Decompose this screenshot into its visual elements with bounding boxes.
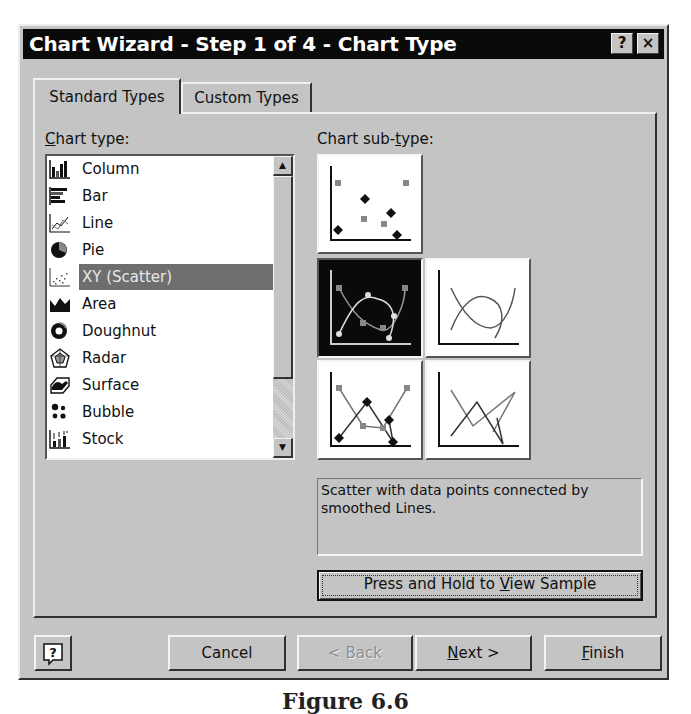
chart-type-item-pie[interactable]: Pie <box>47 237 273 264</box>
chart-type-item-column[interactable]: Column <box>47 156 273 183</box>
subtype-scatter-smoothed-lines-markers[interactable] <box>317 258 423 358</box>
scatter-straight-icon <box>431 366 525 454</box>
subtype-scatter-straight-lines[interactable] <box>425 360 531 460</box>
surface-chart-icon <box>49 375 71 395</box>
chart-type-item-area[interactable]: Area <box>47 291 273 318</box>
chart-subtype-grid <box>317 154 537 464</box>
chart-subtype-label: Chart sub-type: <box>317 130 434 148</box>
chart-type-item-label: Stock <box>79 426 127 452</box>
next-button[interactable]: Next > <box>415 635 532 671</box>
chart-type-item-label: Surface <box>79 372 142 398</box>
chart-type-item-label: Area <box>79 291 120 317</box>
chart-wizard-dialog: Chart Wizard - Step 1 of 4 - Chart Type … <box>18 24 669 680</box>
chart-type-item-label: Radar <box>79 345 129 371</box>
pie-chart-icon <box>49 240 71 260</box>
tab-custom-types[interactable]: Custom Types <box>181 82 312 114</box>
chart-type-item-label: Doughnut <box>79 318 159 344</box>
chart-type-item-stock[interactable]: Stock <box>47 426 273 453</box>
chart-type-item-xy-scatter[interactable]: XY (Scatter) <box>47 264 273 291</box>
chart-type-item-radar[interactable]: Radar <box>47 345 273 372</box>
svg-text:?: ? <box>49 645 57 660</box>
area-chart-icon <box>49 294 71 314</box>
chart-subtype-label-text: Chart sub- <box>317 130 395 148</box>
chart-subtype-label-text-end: ype: <box>401 130 434 148</box>
doughnut-chart-icon <box>49 321 71 341</box>
chart-type-label-text: hart type: <box>55 130 129 148</box>
close-button[interactable]: × <box>637 33 659 54</box>
office-assistant-help-button[interactable]: ? <box>34 635 72 671</box>
help-balloon-icon: ? <box>42 642 64 666</box>
chart-type-item-surface[interactable]: Surface <box>47 372 273 399</box>
cancel-button[interactable]: Cancel <box>168 635 286 671</box>
chart-type-item-label: Pie <box>79 237 107 263</box>
chart-type-listbox[interactable]: Column Bar Line Pie XY (Scatter) <box>45 154 295 460</box>
chart-type-item-bar[interactable]: Bar <box>47 183 273 210</box>
view-sample-label: Press and Hold to View Sample <box>364 575 597 593</box>
standard-types-panel: Chart type: Column Bar Line Pie <box>33 112 657 618</box>
chart-type-scrollbar[interactable]: ▲ ▼ <box>273 156 293 458</box>
chart-type-item-label: Bubble <box>79 399 137 425</box>
view-sample-text-end: iew Sample <box>510 575 597 593</box>
chart-type-item-label: Bar <box>79 183 111 209</box>
next-label: ext > <box>459 644 500 662</box>
scroll-down-arrow-icon[interactable]: ▼ <box>273 438 293 458</box>
chart-type-item-label: XY (Scatter) <box>79 264 273 290</box>
chart-type-item-doughnut[interactable]: Doughnut <box>47 318 273 345</box>
title-bar[interactable]: Chart Wizard - Step 1 of 4 - Chart Type … <box>23 29 664 59</box>
subtype-scatter-smoothed-lines[interactable] <box>425 258 531 358</box>
scatter-smoothed-markers-icon <box>323 264 417 352</box>
scatter-markers-icon <box>323 160 417 248</box>
subtype-scatter-markers-only[interactable] <box>317 154 423 254</box>
stock-chart-icon <box>49 429 71 449</box>
chart-type-item-bubble[interactable]: Bubble <box>47 399 273 426</box>
chart-type-item-label: Column <box>79 156 142 182</box>
view-sample-text: Press and Hold to <box>364 575 500 593</box>
bubble-chart-icon <box>49 402 71 422</box>
window-title: Chart Wizard - Step 1 of 4 - Chart Type <box>29 32 457 56</box>
tab-standard-types[interactable]: Standard Types <box>33 78 181 114</box>
chart-type-label-accesskey: C <box>45 130 55 148</box>
scatter-straight-markers-icon <box>323 366 417 454</box>
radar-chart-icon <box>49 348 71 368</box>
scatter-chart-icon <box>49 267 71 287</box>
figure-caption: Figure 6.6 <box>0 688 691 714</box>
scroll-up-arrow-icon[interactable]: ▲ <box>273 156 293 176</box>
view-sample-accesskey: V <box>500 575 510 593</box>
next-accesskey: N <box>447 644 458 662</box>
scrollbar-thumb[interactable] <box>273 176 293 379</box>
chart-type-label: Chart type: <box>45 130 130 148</box>
chart-type-item-label: Line <box>79 210 116 236</box>
column-chart-icon <box>49 159 71 179</box>
bar-chart-icon <box>49 186 71 206</box>
finish-button[interactable]: Finish <box>544 635 662 671</box>
title-help-button[interactable]: ? <box>611 33 633 54</box>
line-chart-icon <box>49 213 71 233</box>
view-sample-button[interactable]: Press and Hold to View Sample <box>317 570 643 601</box>
chart-type-item-line[interactable]: Line <box>47 210 273 237</box>
subtype-description: Scatter with data points connected by sm… <box>317 478 643 556</box>
subtype-scatter-straight-lines-markers[interactable] <box>317 360 423 460</box>
finish-label: inish <box>589 644 624 662</box>
scatter-smoothed-icon <box>431 264 525 352</box>
back-button[interactable]: < Back <box>297 635 413 671</box>
